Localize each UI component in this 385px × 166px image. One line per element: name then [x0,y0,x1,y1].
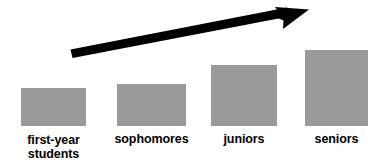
bar-rect-seniors [305,50,368,126]
bar-label-juniors: juniors [197,132,291,147]
bar-chart-figure: 6% first-year students 7% sophomores 10%… [0,0,385,166]
plot-area: 6% first-year students 7% sophomores 10%… [0,0,385,166]
bar-group-juniors: 10% juniors [211,0,277,166]
bar-rect-sophomores [117,84,186,126]
bar-label-sophomores: sophomores [103,132,200,147]
bar-group-first-year-students: 6% first-year students [21,0,86,166]
bar-rect-first-year-students [21,88,86,126]
bar-group-seniors: 11% seniors [305,0,368,166]
bar-group-sophomores: 7% sophomores [117,0,186,166]
bar-label-seniors: seniors [291,132,382,147]
bar-rect-juniors [211,65,277,126]
bar-label-first-year-students: first-year students [7,133,100,163]
